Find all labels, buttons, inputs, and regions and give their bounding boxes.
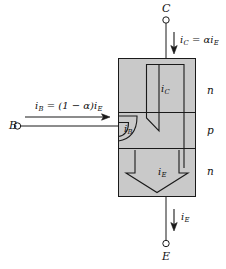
transistor-current-figure: C B E n p n iC = αiE iB = (1 − α)iE iE i…: [0, 0, 226, 269]
internal-collector-sub: C: [165, 88, 170, 96]
emitter-lead-group: [163, 197, 169, 247]
internal-base-symbol: i: [124, 123, 127, 134]
emitter-current-arrow: [171, 209, 177, 231]
layer-label-base-p: p: [207, 125, 214, 136]
base-eq-lhs-symbol: i: [35, 100, 38, 111]
collector-current-arrow: [171, 32, 177, 54]
emitter-current-sub: E: [185, 216, 190, 224]
emitter-current-label: iE: [181, 212, 189, 224]
collector-terminal-label: C: [162, 3, 170, 14]
internal-base-sub: B: [128, 128, 133, 136]
internal-emitter-sub: E: [162, 171, 167, 179]
collector-eq-rhs-sub: E: [214, 39, 219, 47]
collector-eq-equals: =: [189, 34, 204, 45]
layer-label-collector-n: n: [207, 85, 214, 96]
base-lead-group: [14, 123, 118, 129]
internal-base-current-label: iB: [124, 124, 133, 136]
collector-eq-rhs-symbol: αi: [203, 34, 213, 45]
base-eq-rhs-sub: E: [97, 105, 102, 113]
base-current-arrow: [25, 114, 110, 120]
internal-emitter-current-label: iE: [158, 167, 166, 179]
emitter-current-symbol: i: [181, 211, 184, 222]
base-eq-rhs-symbol: (1 − α)i: [58, 100, 97, 111]
base-terminal-label: B: [9, 120, 17, 131]
emitter-terminal-node: [163, 240, 169, 246]
base-eq-equals: =: [44, 100, 59, 111]
emitter-terminal-label: E: [162, 251, 170, 262]
collector-lead-group: [163, 17, 169, 59]
base-current-equation-label: iB = (1 − α)iE: [35, 101, 102, 113]
collector-terminal-node: [163, 17, 169, 23]
internal-collector-symbol: i: [161, 83, 164, 94]
internal-emitter-symbol: i: [158, 166, 161, 177]
layer-label-emitter-n: n: [207, 166, 214, 177]
collector-current-equation-label: iC = αiE: [180, 35, 219, 47]
internal-collector-current-label: iC: [161, 84, 170, 96]
collector-eq-lhs-symbol: i: [180, 34, 183, 45]
